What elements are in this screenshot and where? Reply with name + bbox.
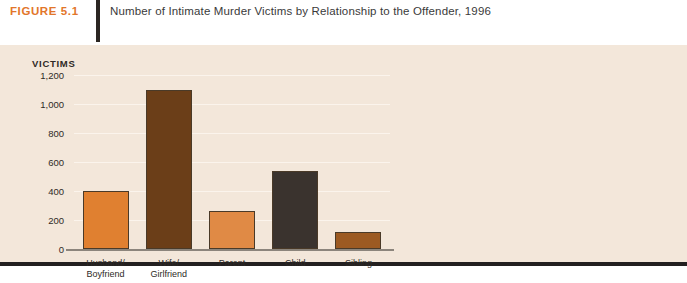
bar[interactable] — [272, 171, 318, 249]
y-axis-tick-label: 600 — [48, 157, 72, 168]
figure-header: FIGURE 5.1 Number of Intimate Murder Vic… — [0, 0, 687, 45]
bar[interactable] — [146, 90, 192, 250]
x-axis-tick-label: Husband/ Boyfriend — [74, 258, 137, 279]
bar[interactable] — [83, 191, 129, 249]
x-axis-tick-label: Sibling — [327, 258, 390, 269]
y-axis-tick-label: 400 — [48, 186, 72, 197]
y-axis-tick-label: 200 — [48, 215, 72, 226]
y-axis-tick-label: 800 — [48, 128, 72, 139]
plot-area: 1,2001,0008006004002000 — [74, 75, 390, 251]
bar-slot — [327, 232, 390, 249]
x-axis-baseline — [66, 249, 394, 251]
x-axis-labels: Husband/ BoyfriendWife/ GirlfriendParent… — [74, 258, 390, 283]
chart-panel: VICTIMS 1,2001,0008006004002000 Husband/… — [0, 45, 687, 266]
header-divider — [96, 0, 100, 42]
x-axis-tick-label: Parent — [200, 258, 263, 269]
y-axis-tick-label: 1,000 — [40, 99, 72, 110]
figure-title: Number of Intimate Murder Victims by Rel… — [110, 5, 491, 17]
x-axis-tick-label: Child — [264, 258, 327, 269]
figure-number-label: FIGURE 5.1 — [10, 5, 79, 17]
bar-slot — [264, 171, 327, 249]
bar[interactable] — [209, 211, 255, 249]
y-axis-tick-label: 1,200 — [40, 70, 72, 81]
bar-slot — [200, 211, 263, 249]
x-axis-tick-label: Wife/ Girlfriend — [137, 258, 200, 279]
y-axis-title: VICTIMS — [32, 58, 75, 69]
bar[interactable] — [335, 232, 381, 249]
bar-slot — [137, 90, 200, 250]
bar-series — [74, 75, 390, 249]
bar-slot — [74, 191, 137, 249]
